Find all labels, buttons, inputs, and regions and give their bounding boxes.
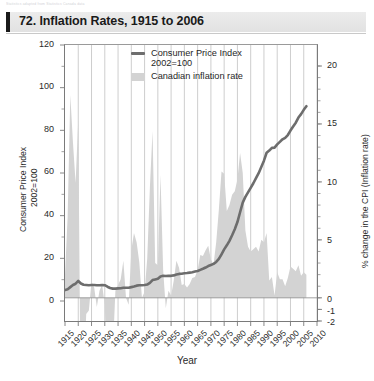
chart-canvas bbox=[65, 45, 317, 321]
chart-legend: Consumer Price Index 2002=100 Canadian i… bbox=[131, 48, 271, 83]
y-tick-right-5: 5 bbox=[327, 236, 332, 245]
plot-area bbox=[64, 44, 318, 322]
legend-item-cpi: Consumer Price Index 2002=100 bbox=[131, 48, 271, 70]
legend-area-swatch bbox=[131, 73, 145, 81]
title-divider bbox=[6, 33, 366, 34]
source-credit-strip: Statistics adapted from Statistics Canad… bbox=[6, 0, 366, 8]
y-tick-right-10: 10 bbox=[327, 178, 337, 187]
y-tick-right-20: 20 bbox=[327, 61, 337, 70]
y-tick-right-15: 15 bbox=[327, 119, 337, 128]
legend-label-inflation: Canadian inflation rate bbox=[151, 71, 243, 82]
y-tick-right-0: 0 bbox=[327, 295, 332, 304]
y-tick-left-100: 100 bbox=[0, 82, 54, 91]
x-axis-title: Year bbox=[0, 355, 374, 366]
chart-title-band: 72. Inflation Rates, 1915 to 2006 bbox=[6, 12, 366, 32]
cpi-line bbox=[65, 106, 306, 290]
y-axis-right-title: % change in the CPI (Inflation rate) bbox=[360, 134, 370, 268]
y-tick-left-40: 40 bbox=[0, 210, 54, 219]
y-tick-left-120: 120 bbox=[0, 40, 54, 49]
y-tick-left-0: 0 bbox=[0, 296, 54, 305]
page-title: 72. Inflation Rates, 1915 to 2006 bbox=[19, 14, 204, 28]
legend-item-inflation: Canadian inflation rate bbox=[131, 71, 271, 82]
legend-label-cpi-base: 2002=100 bbox=[151, 58, 192, 69]
y-tick-left-60: 60 bbox=[0, 167, 54, 176]
y-tick-right-neg1: -1 bbox=[327, 307, 335, 316]
y-tick-left-20: 20 bbox=[0, 253, 54, 262]
y-tick-left-80: 80 bbox=[0, 125, 54, 134]
legend-line-swatch bbox=[131, 52, 145, 55]
y-axis-left-title-line1: Consumer Price Index bbox=[18, 147, 28, 232]
y-tick-right-neg2: -2 bbox=[327, 318, 335, 327]
inflation-rate-area bbox=[65, 95, 306, 321]
